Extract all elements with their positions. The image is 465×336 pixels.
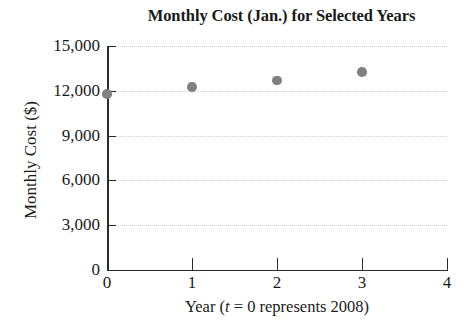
y-axis-tick xyxy=(107,270,116,271)
x-axis-tick xyxy=(447,258,448,270)
chart-figure: Monthly Cost (Jan.) for Selected Years M… xyxy=(0,0,465,336)
data-point xyxy=(187,82,197,92)
gridline xyxy=(107,225,447,226)
x-axis-title-suffix: = 0 represents 2008) xyxy=(230,297,369,316)
x-axis-tick-label: 1 xyxy=(172,274,212,291)
chart-title: Monthly Cost (Jan.) for Selected Years xyxy=(100,6,463,26)
y-axis-tick-label: 15,000 xyxy=(53,37,100,54)
data-point xyxy=(272,76,282,86)
gridline xyxy=(107,136,447,137)
x-axis-tick-label: 4 xyxy=(427,274,465,291)
x-axis-tick xyxy=(192,258,193,270)
y-axis-tick-label: 3,000 xyxy=(62,216,100,233)
x-axis-title-prefix: Year ( xyxy=(185,297,225,316)
gridline xyxy=(107,180,447,181)
y-axis-tick xyxy=(107,136,116,137)
x-axis-tick-label: 0 xyxy=(87,274,127,291)
y-axis-tick-label: 6,000 xyxy=(62,171,100,188)
x-axis-tick xyxy=(277,258,278,270)
y-axis-line xyxy=(107,46,109,271)
y-axis-title: Monthly Cost ($) xyxy=(21,50,41,270)
y-axis-tick xyxy=(107,225,116,226)
x-axis-tick-label: 2 xyxy=(257,274,297,291)
x-axis-tick-label: 3 xyxy=(342,274,382,291)
gridline xyxy=(107,91,447,92)
data-point xyxy=(102,89,112,99)
plot-area: 03,0006,0009,00012,00015,000 01234 xyxy=(107,46,447,270)
y-axis-tick xyxy=(107,180,116,181)
y-axis-tick-label: 9,000 xyxy=(62,127,100,144)
y-axis-tick xyxy=(107,46,116,47)
data-point xyxy=(357,67,367,77)
x-axis-title: Year (t = 0 represents 2008) xyxy=(107,297,447,317)
y-axis-tick-label: 12,000 xyxy=(53,82,100,99)
x-axis-tick xyxy=(362,258,363,270)
gridline xyxy=(107,46,447,47)
